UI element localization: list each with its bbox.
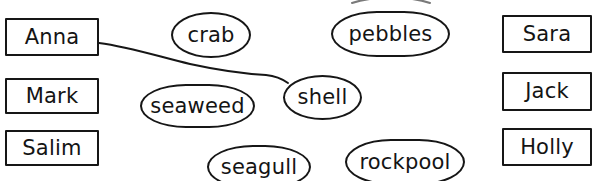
connector-anna-to-shell[interactable]: [99, 43, 288, 83]
connector-layer: [0, 0, 593, 181]
worksheet-canvas: Anna Mark Salim Sara Jack Holly crab peb…: [0, 0, 593, 181]
